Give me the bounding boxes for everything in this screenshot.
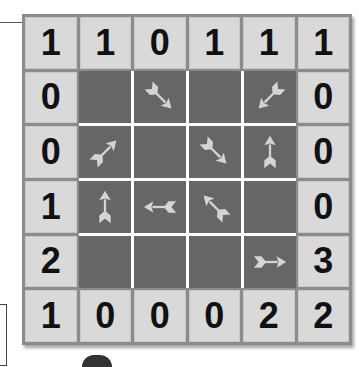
grid-cell-3-3[interactable] xyxy=(244,236,296,288)
grid-cell-1-0[interactable] xyxy=(79,126,131,178)
clue-bottom-0: 1 xyxy=(25,290,77,342)
clue-top-1: 1 xyxy=(80,17,132,69)
clue-top-0: 1 xyxy=(25,17,77,69)
clue-bottom-3: 0 xyxy=(189,290,241,342)
grid-cell-1-1[interactable] xyxy=(134,126,186,178)
grid-cell-3-2[interactable] xyxy=(189,236,241,288)
arrow-n-icon xyxy=(251,133,289,171)
arrow-nw-icon xyxy=(196,188,234,226)
side-box-edge xyxy=(0,304,7,366)
clue-right-3: 3 xyxy=(298,236,350,288)
arrow-w-icon xyxy=(141,188,179,226)
grid-cell-2-0[interactable] xyxy=(79,181,131,233)
grid-cell-0-2[interactable] xyxy=(189,71,241,123)
grid-cell-2-3[interactable] xyxy=(244,181,296,233)
arrow-se-icon xyxy=(196,133,234,171)
clue-left-2: 1 xyxy=(25,181,77,233)
clue-left-3: 2 xyxy=(25,236,77,288)
clue-right-0: 0 xyxy=(298,72,350,124)
arrow-ne-icon xyxy=(86,133,124,171)
puzzle-board: 1 1 0 1 1 1 0 0 1 2 0 0 0 3 1 0 0 0 2 2 xyxy=(22,14,352,345)
clue-left-0: 0 xyxy=(25,72,77,124)
arrow-sw-icon xyxy=(251,78,289,116)
grid-cell-0-0[interactable] xyxy=(79,71,131,123)
clue-bottom-5: 2 xyxy=(298,290,350,342)
grid-cell-3-0[interactable] xyxy=(79,236,131,288)
clue-right-1: 0 xyxy=(298,126,350,178)
grid-cell-1-2[interactable] xyxy=(189,126,241,178)
leader-line xyxy=(0,22,24,23)
grid-cell-2-2[interactable] xyxy=(189,181,241,233)
arrow-n-icon xyxy=(86,188,124,226)
clue-top-3: 1 xyxy=(189,17,241,69)
clue-left-1: 0 xyxy=(25,126,77,178)
clue-top-4: 1 xyxy=(243,17,295,69)
arrow-e-icon xyxy=(251,243,289,281)
shadow-shape xyxy=(82,355,112,367)
arrow-grid xyxy=(79,71,296,289)
clue-bottom-2: 0 xyxy=(134,290,186,342)
grid-cell-3-1[interactable] xyxy=(134,236,186,288)
grid-cell-1-3[interactable] xyxy=(244,126,296,178)
clue-right-2: 0 xyxy=(298,181,350,233)
grid-cell-2-1[interactable] xyxy=(134,181,186,233)
arrow-se-icon xyxy=(141,78,179,116)
clue-bottom-1: 0 xyxy=(80,290,132,342)
clue-top-5: 1 xyxy=(298,17,350,69)
grid-cell-0-3[interactable] xyxy=(244,71,296,123)
grid-cell-0-1[interactable] xyxy=(134,71,186,123)
clue-bottom-4: 2 xyxy=(243,290,295,342)
clue-top-2: 0 xyxy=(134,17,186,69)
